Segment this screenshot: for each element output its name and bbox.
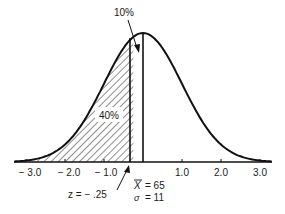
xbar-value: = 65 [145,180,165,191]
z-arrow-head-icon [124,165,130,173]
top-percent-label: 10% [114,7,134,18]
z-arrow-shaft [117,170,127,190]
shaded-percent-label: 40% [99,110,119,121]
tick-label-neg1: − 1.0 [95,167,118,178]
sigma-value: = 11 [145,192,164,203]
tick-label-pos1: 1.0 [175,167,189,178]
z-value-label: z = − .25 [68,189,107,200]
tick-label-pos3: 3.0 [253,167,267,178]
tick-label-pos2: 2.0 [214,167,228,178]
normal-distribution-diagram: − 3.0 − 2.0 − 1.0 1.0 2.0 3.0 10% 40% z … [0,0,285,214]
top-arrow-head-icon [134,44,140,53]
sigma-symbol: σ [134,193,140,203]
shaded-tail-region [14,37,133,162]
tick-label-neg3: − 3.0 [19,167,42,178]
tick-label-neg2: − 2.0 [58,167,81,178]
xbar-symbol: X [133,180,141,191]
